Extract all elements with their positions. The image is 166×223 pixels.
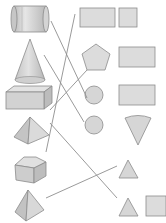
rectangle-2-shape	[119, 47, 155, 67]
triangle-1-shape	[119, 160, 138, 178]
line-cylinder-circle	[51, 21, 87, 98]
pentagon-shape	[82, 44, 110, 70]
long-rectangle-shape	[80, 8, 115, 27]
sector-shape	[125, 116, 151, 146]
square-bottom-shape	[146, 196, 166, 216]
triangle-2-shape	[119, 198, 138, 216]
circle-2-shape	[85, 116, 103, 134]
cylinder-solid	[11, 6, 49, 32]
square-top-shape	[119, 8, 137, 27]
line-pyramid-triangle	[50, 123, 117, 198]
circle-1-shape	[85, 86, 103, 104]
pentagonal-prism-solid	[15, 157, 46, 183]
matching-diagram	[0, 0, 166, 223]
square-pyramid-solid	[14, 117, 49, 144]
line-pentagon-cuboid	[50, 70, 87, 110]
triangular-pyramid-solid	[15, 190, 44, 221]
rectangle-3-shape	[119, 85, 155, 105]
cone-solid	[15, 39, 45, 84]
cuboid-solid	[6, 86, 52, 109]
line-tetrahedron-triangle	[46, 166, 117, 198]
